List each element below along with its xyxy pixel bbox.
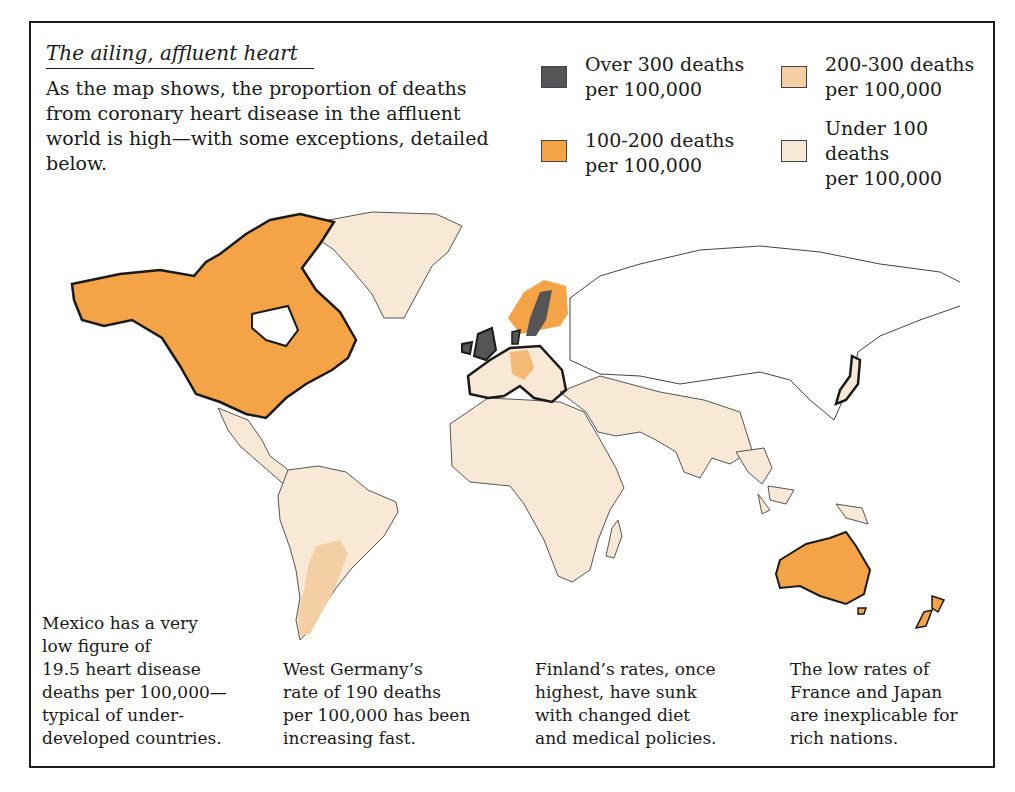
note-west-germany: West Germany’s rate of 190 deaths per 10… (283, 658, 513, 750)
note-mexico: Mexico has a very low figure of 19.5 hea… (42, 612, 262, 750)
legend-under-100: Under 100 deaths per 100,000 (781, 116, 942, 191)
legend-swatch-200-300 (781, 66, 807, 88)
world-map (60, 200, 960, 640)
legend-swatch-100-200 (541, 140, 567, 162)
legend-swatch-under-100 (781, 140, 807, 162)
legend-label: 100-200 deaths (585, 128, 734, 153)
legend-label: 200-300 deaths (825, 52, 974, 77)
region-uk-ireland (462, 328, 496, 360)
note-finland: Finland’s rates, once highest, have sunk… (535, 658, 765, 750)
legend-label: Over 300 deaths (585, 52, 744, 77)
region-australia (776, 532, 870, 604)
legend-200-300: 200-300 deaths per 100,000 (781, 52, 974, 102)
legend-label: per 100,000 (585, 77, 744, 102)
legend-label: per 100,000 (825, 77, 974, 102)
region-north-america (72, 214, 356, 418)
legend-over-300: Over 300 deaths per 100,000 (541, 52, 744, 102)
region-southeast-asia (736, 448, 868, 524)
legend-100-200: 100-200 deaths per 100,000 (541, 128, 734, 178)
region-greenland (314, 212, 462, 318)
legend-label: per 100,000 (825, 166, 942, 191)
intro-text: As the map shows, the proportion of deat… (46, 76, 516, 176)
note-france-japan: The low rates of France and Japan are in… (790, 658, 995, 750)
region-tasmania (858, 608, 866, 614)
region-denmark (512, 330, 520, 344)
region-new-zealand (916, 596, 944, 628)
legend-swatch-over-300 (541, 66, 567, 88)
map-title: The ailing, affluent heart (46, 41, 314, 69)
legend-label: per 100,000 (585, 153, 734, 178)
region-madagascar (606, 520, 622, 558)
legend-label: deaths (825, 141, 942, 166)
legend-label: Under 100 (825, 116, 942, 141)
